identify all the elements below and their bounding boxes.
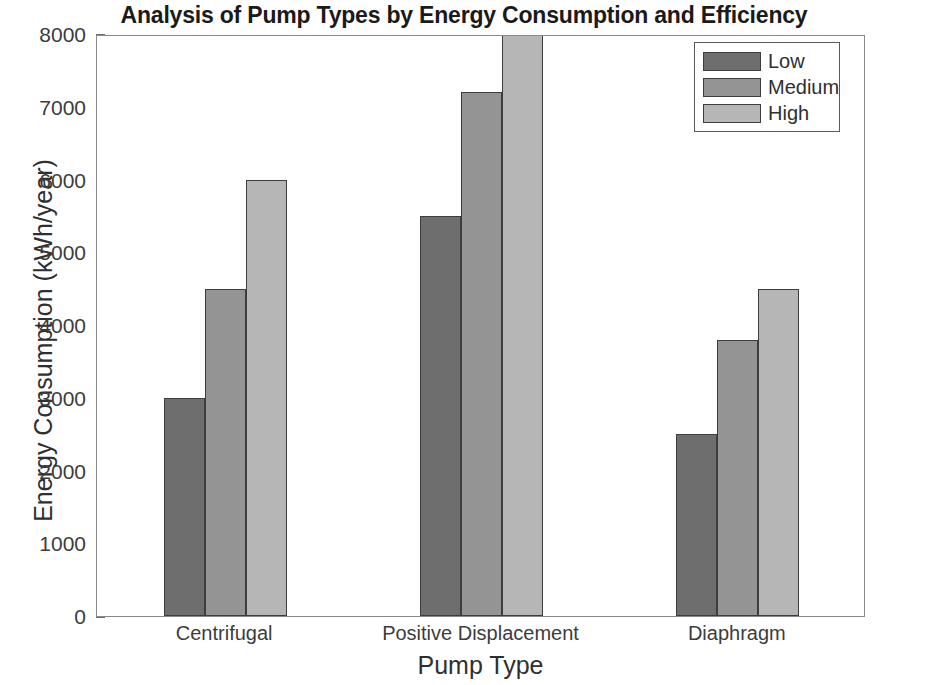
bar bbox=[717, 340, 758, 616]
legend-label: High bbox=[768, 103, 809, 123]
legend-label: Low bbox=[768, 51, 805, 71]
bar bbox=[420, 216, 461, 616]
bar bbox=[502, 35, 543, 616]
bar bbox=[461, 92, 502, 616]
x-tick-label: Diaphragm bbox=[688, 622, 786, 645]
legend-swatch-icon bbox=[703, 78, 761, 97]
chart-legend: LowMediumHigh bbox=[694, 42, 840, 132]
legend-swatch-icon bbox=[703, 52, 761, 71]
legend-item[interactable]: High bbox=[703, 101, 831, 125]
chart-figure: Analysis of Pump Types by Energy Consump… bbox=[0, 0, 928, 685]
x-tick-label: Centrifugal bbox=[176, 622, 273, 645]
bar bbox=[246, 180, 287, 617]
bar bbox=[164, 398, 205, 616]
bar bbox=[758, 289, 799, 616]
legend-item[interactable]: Low bbox=[703, 49, 831, 73]
bar bbox=[205, 289, 246, 616]
legend-label: Medium bbox=[768, 77, 839, 97]
y-axis-label: Energy Consumption (kWh/year) bbox=[29, 51, 58, 631]
bar bbox=[676, 434, 717, 616]
legend-swatch-icon bbox=[703, 104, 761, 123]
legend-item[interactable]: Medium bbox=[703, 75, 831, 99]
x-axis-label: Pump Type bbox=[96, 651, 865, 680]
x-tick-label: Positive Displacement bbox=[382, 622, 579, 645]
chart-title: Analysis of Pump Types by Energy Consump… bbox=[0, 2, 928, 29]
